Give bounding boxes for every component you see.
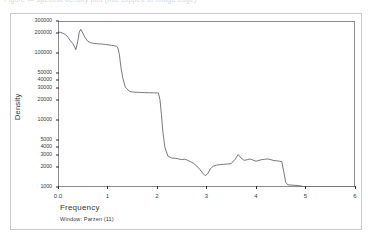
x-axis-ticks: 0.0123456: [58, 187, 355, 203]
y-tick-mark: [56, 21, 59, 22]
y-axis-title: Density: [13, 94, 22, 120]
y-tick-mark: [56, 52, 59, 53]
y-tick-mark: [56, 166, 59, 167]
y-tick-mark: [56, 32, 59, 33]
x-tick-label: 4: [254, 193, 257, 199]
x-tick-mark: [157, 186, 158, 189]
x-tick-label: 0.0: [54, 193, 62, 199]
y-tick-label: 20000: [38, 97, 53, 102]
x-tick-label: 6: [353, 193, 356, 199]
x-tick-label: 5: [304, 193, 307, 199]
x-tick-label: 1: [106, 193, 109, 199]
y-tick-mark: [56, 79, 59, 80]
y-tick-label: 100000: [35, 50, 52, 55]
density-series-line: [58, 29, 355, 187]
x-tick-label: 2: [155, 193, 158, 199]
y-tick-mark: [56, 119, 59, 120]
y-axis-ticks: 3000002000001000005000040000300002000010…: [0, 21, 56, 187]
y-tick-label: 4000: [40, 144, 52, 149]
y-tick-mark: [56, 146, 59, 147]
y-tick-label: 3000: [40, 152, 52, 157]
x-tick-mark: [355, 186, 356, 189]
y-tick-label: 1000: [40, 184, 52, 189]
x-axis-title: Frequency: [60, 203, 100, 212]
x-tick-mark: [58, 186, 59, 189]
y-tick-mark: [56, 73, 59, 74]
clipped-top-caption-text: Figure — spectral density plot (title cl…: [0, 0, 197, 3]
x-tick-mark: [107, 186, 108, 189]
y-tick-label: 300000: [35, 18, 52, 23]
y-tick-label: 10000: [38, 117, 53, 122]
x-tick-mark: [206, 186, 207, 189]
y-tick-label: 30000: [38, 85, 53, 90]
y-tick-label: 40000: [38, 77, 53, 82]
y-tick-mark: [56, 155, 59, 156]
clipped-top-caption: Figure — spectral density plot (title cl…: [0, 0, 372, 7]
x-tick-label: 3: [205, 193, 208, 199]
y-tick-mark: [56, 140, 59, 141]
y-tick-mark: [56, 88, 59, 89]
x-tick-mark: [305, 186, 306, 189]
y-tick-mark: [56, 99, 59, 100]
x-tick-mark: [256, 186, 257, 189]
chart-page: Figure — spectral density plot (title cl…: [0, 0, 372, 238]
y-tick-label: 200000: [35, 30, 52, 35]
density-line-chart: [58, 21, 355, 187]
y-tick-label: 2000: [40, 164, 52, 169]
window-footnote: Window: Parzen (11): [60, 216, 114, 222]
